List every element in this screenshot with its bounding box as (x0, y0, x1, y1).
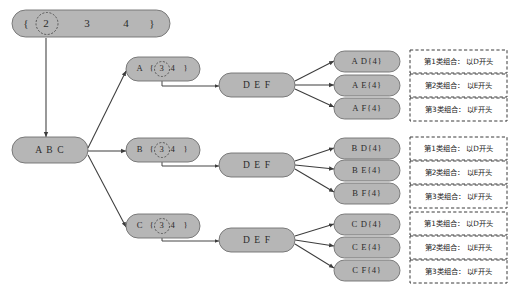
branch-b-node[interactable]: B { 3 4 } (126, 138, 200, 162)
branch-a-circled-value: 3 (160, 63, 165, 73)
annotation-text: 第1类组合： 以D开头 (424, 144, 493, 153)
result-label: A E{4} (352, 80, 382, 90)
def-node-b-label: D E F (243, 160, 271, 170)
result-node[interactable]: C D{4} (334, 214, 400, 235)
result-node[interactable]: B E{4} (334, 160, 400, 181)
annotation-box: 第1类组合： 以D开头 (410, 137, 507, 160)
result-label: B D{4} (352, 143, 383, 153)
branch-c-open-brace: { (150, 220, 155, 230)
result-label: C F{4} (352, 265, 381, 275)
branch-a-open-brace: { (150, 63, 155, 73)
result-label: A F{4} (352, 103, 381, 113)
def-node-c-label: D E F (243, 235, 271, 245)
annotation-text: 第2类组合： 以E开头 (425, 243, 493, 252)
branch-a-letter: A (137, 63, 144, 73)
root-value-3: 4 (123, 17, 131, 29)
annotation-box: 第1类组合： 以D开头 (410, 212, 507, 235)
branch-b-close-brace: } (184, 144, 189, 154)
result-label: C E{4} (352, 242, 382, 252)
edge-def-b-to-result-1 (295, 148, 334, 161)
annotation-box: 第2类组合： 以E开头 (410, 74, 507, 97)
annotation-box: 第3类组合： 以F开头 (410, 98, 507, 121)
def-node-b[interactable]: D E F (219, 153, 295, 177)
result-label: B F{4} (352, 188, 381, 198)
root-value-2: 3 (84, 17, 92, 29)
edge-def-c-to-result-3 (295, 244, 334, 268)
def-node-a[interactable]: D E F (219, 73, 295, 97)
result-node[interactable]: A E{4} (334, 75, 400, 96)
result-node[interactable]: B D{4} (334, 138, 400, 159)
branch-c-letter: C (137, 220, 143, 230)
root-circled-value: 2 (43, 17, 51, 29)
root-close-brace: } (149, 17, 156, 29)
annotation-text: 第2类组合： 以E开头 (425, 168, 493, 177)
def-node-a-label: D E F (243, 80, 271, 90)
annotation-text: 第3类组合： 以F开头 (425, 192, 492, 201)
branch-c-close-brace: } (184, 220, 189, 230)
annotation-box: 第3类组合： 以F开头 (410, 185, 507, 208)
edge-def-a-to-result-1 (295, 61, 334, 81)
branch-b-rest-value: 4 (171, 144, 176, 154)
annotation-box: 第1类组合： 以D开头 (410, 50, 507, 73)
result-node[interactable]: C F{4} (334, 260, 400, 281)
branch-c-circled-value: 3 (160, 220, 165, 230)
result-node[interactable]: B F{4} (334, 183, 400, 204)
result-node[interactable]: A F{4} (334, 98, 400, 119)
def-node-c[interactable]: D E F (219, 228, 295, 252)
branch-b-open-brace: { (150, 144, 155, 154)
annotation-text: 第1类组合： 以D开头 (424, 57, 493, 66)
branch-a-close-brace: } (184, 63, 189, 73)
branch-b-letter: B (137, 144, 143, 154)
annotation-box: 第2类组合： 以E开头 (410, 236, 507, 259)
annotation-text: 第3类组合： 以F开头 (425, 105, 492, 114)
edge-def-b-to-result-3 (295, 169, 334, 192)
source-node-abc[interactable]: A B C (12, 137, 88, 163)
root-set-node[interactable]: { 2 3 4 } (12, 10, 170, 37)
result-label: C D{4} (352, 219, 383, 229)
branch-a-node[interactable]: A { 3 4 } (126, 57, 200, 81)
edge-def-b-to-result-2 (295, 165, 334, 169)
edge-def-c-to-result-1 (295, 224, 334, 236)
edge-def-a-to-result-3 (295, 89, 334, 107)
edge-abc-to-branch-c (88, 155, 126, 227)
edge-def-c-to-result-2 (295, 240, 334, 246)
annotation-box: 第2类组合： 以E开头 (410, 161, 507, 184)
branch-a-rest-value: 4 (171, 63, 176, 73)
result-node[interactable]: A D{4} (334, 51, 400, 72)
edge-abc-to-branch-a (88, 71, 126, 148)
root-open-brace: { (23, 17, 30, 29)
annotation-text: 第1类组合： 以D开头 (424, 219, 493, 228)
result-label: B E{4} (352, 165, 382, 175)
branch-c-node[interactable]: C { 3 4 } (126, 214, 200, 238)
branch-c-rest-value: 4 (171, 220, 176, 230)
branch-b-circled-value: 3 (160, 144, 165, 154)
annotation-text: 第2类组合： 以E开头 (425, 81, 493, 90)
annotation-box: 第3类组合： 以F开头 (410, 260, 507, 283)
source-node-label: A B C (35, 145, 64, 155)
result-label: A D{4} (352, 56, 383, 66)
diagram-canvas: { 2 3 4 } A B C A { 3 4 } B { 3 (0, 0, 511, 297)
result-node[interactable]: C E{4} (334, 237, 400, 258)
annotation-text: 第3类组合： 以F开头 (425, 267, 492, 276)
